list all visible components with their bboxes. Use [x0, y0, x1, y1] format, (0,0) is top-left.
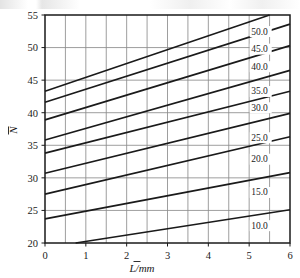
chart-figure: 0123456 2025303540455055 50.045.040.035.… [0, 0, 300, 278]
curve-label: 50.0 [251, 27, 268, 37]
curve-label: 30.0 [251, 103, 268, 113]
curve-label: 40.0 [251, 62, 268, 72]
x-tick-label: 4 [206, 250, 212, 261]
curve-label: 35.0 [251, 86, 268, 96]
page-scan-artifact [0, 0, 300, 9]
x-tick-label: 6 [287, 250, 292, 261]
x-tick-labels: 0123456 [42, 250, 292, 261]
y-tick-label: 35 [28, 140, 39, 151]
curve-label: 45.0 [251, 44, 268, 54]
y-tick-label: 20 [28, 238, 39, 249]
x-tick-label: 1 [83, 250, 88, 261]
x-tick-label: 3 [165, 250, 170, 261]
y-tick-label: 30 [28, 173, 39, 184]
x-tick-label: 0 [42, 250, 47, 261]
y-tick-label: 40 [28, 108, 39, 119]
y-tick-labels: 2025303540455055 [28, 10, 39, 249]
curve-label: 15.0 [251, 187, 268, 197]
curve-label: 10.0 [251, 221, 268, 231]
y-axis-title: N [7, 126, 19, 135]
nomogram-plot: 0123456 2025303540455055 50.045.040.035.… [0, 0, 300, 278]
x-tick-label: 2 [124, 250, 129, 261]
x-tick-label: 5 [247, 250, 252, 261]
y-tick-label: 25 [28, 205, 39, 216]
curve-label: 25.0 [251, 133, 268, 143]
y-tick-label: 50 [28, 42, 39, 53]
y-tick-label: 55 [28, 10, 39, 21]
curve-label: 20.0 [251, 154, 268, 164]
x-axis-title: L/mm [128, 262, 154, 275]
y-tick-label: 45 [28, 75, 39, 86]
svg-text:L/mm: L/mm [128, 262, 154, 274]
